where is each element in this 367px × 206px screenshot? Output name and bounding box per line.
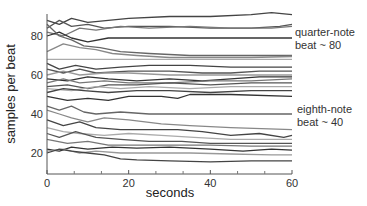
x-axis-label: seconds [146,185,195,200]
quarter-note-annotation-line1: quarter-note [295,26,355,38]
x-tick-label: 20 [123,177,135,189]
series-line-s23 [47,147,292,151]
x-tick-label: 60 [286,177,298,189]
y-axis-label: samples per beat [3,44,18,144]
series-line-s4 [47,32,292,42]
quarter-note-annotation-line2: beat ~ 80 [295,39,341,51]
series-line-s8 [47,63,292,69]
series-line-s9 [47,69,292,73]
series-line-s3 [47,26,292,36]
series-line-s17 [47,106,292,114]
eighth-note-annotation-line1: eighth-note [297,103,352,115]
eighth-note-annotation-line2: beat ~ 40 [297,116,343,128]
series-line-s16 [47,95,292,101]
y-ticks: 20406080 [31,30,43,159]
x-tick-label: 0 [44,177,50,189]
y-tick-label: 80 [31,30,43,42]
y-tick-label: 20 [31,147,43,159]
plot-lines [47,13,292,162]
y-tick-label: 40 [31,108,43,120]
series-line-s18 [47,110,292,130]
annotations: quarter-note beat ~ 80 eighth-note beat … [295,26,355,128]
series-line-s25 [47,149,292,162]
series-line-s1 [47,13,292,25]
y-tick-label: 60 [31,69,43,81]
x-tick-label: 40 [204,177,216,189]
chart: 0204060 20406080 seconds samples per bea… [0,0,367,206]
